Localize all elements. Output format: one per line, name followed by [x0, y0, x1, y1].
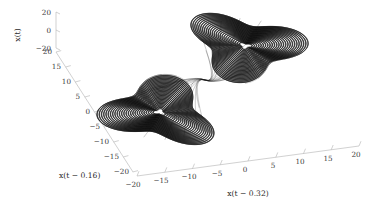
left-depth-axis-label: x(t − 0.16)	[59, 171, 100, 180]
bottom-ticklabel-neg15: −15	[153, 176, 169, 185]
left-tick-20	[56, 51, 61, 52]
attractor-trajectory	[97, 13, 309, 145]
vertical-tick-neg20	[56, 48, 60, 50]
bottom-ticklabel-neg5: −5	[212, 169, 223, 178]
bottom-ticklabel-20: 20	[351, 150, 361, 159]
left-ticklabel-neg10: −10	[94, 137, 110, 146]
axis-bottom-right: −20 −15 −10 −5 0 5 10 15 20 x(t − 0.32)	[125, 141, 361, 198]
vertical-tick-20	[56, 12, 60, 14]
bottom-ticklabel-neg20: −20	[125, 180, 141, 189]
orbit-connector	[173, 78, 205, 91]
left-ticklabel-15: 15	[52, 62, 62, 71]
left-ticklabel-20: 20	[43, 47, 53, 56]
axis-vertical-xt: 20 0 −20 x(t)	[13, 8, 60, 53]
left-tick-0	[94, 111, 99, 112]
bottom-tick-5	[276, 152, 278, 157]
bottom-tick-neg5	[220, 160, 222, 165]
bottom-tick-20	[359, 141, 361, 146]
bottom-ticklabel-0: 0	[243, 165, 248, 174]
bottom-tick-neg15	[165, 167, 167, 172]
vertical-ticklabel-0: 0	[46, 26, 51, 35]
figure-3d-attractor-plot: 20 0 −20 x(t) 20 15 10 5 0 −5 −10 −15 −2…	[0, 0, 374, 215]
bottom-ticklabel-15: 15	[323, 154, 333, 163]
left-tick-10	[75, 81, 80, 82]
bottom-ticklabel-neg10: −10	[181, 172, 197, 181]
orbit-connector	[205, 50, 212, 81]
left-ticklabel-neg5: −5	[89, 122, 100, 131]
left-tick-neg20	[133, 171, 138, 172]
bottom-tick-15	[331, 145, 333, 150]
left-tick-neg15	[123, 156, 128, 157]
left-tick-15	[66, 66, 71, 67]
bottom-tick-neg20	[137, 171, 139, 176]
left-ticklabel-0: 0	[85, 107, 90, 116]
vertical-ticklabel-20: 20	[42, 8, 52, 17]
bottom-ticklabel-5: 5	[271, 161, 276, 170]
bottom-ticklabel-10: 10	[295, 157, 305, 166]
left-tick-5	[85, 96, 90, 97]
orbit-connector	[197, 79, 205, 119]
vertical-tick-0	[56, 30, 60, 32]
bottom-tick-0	[248, 156, 250, 161]
bottom-tick-10	[304, 149, 306, 154]
plot-canvas: 20 0 −20 x(t) 20 15 10 5 0 −5 −10 −15 −2…	[0, 0, 374, 215]
left-ticklabel-neg15: −15	[104, 152, 120, 161]
left-ticklabel-5: 5	[75, 92, 80, 101]
vertical-axis-label: x(t)	[13, 28, 22, 41]
bottom-right-axis-label: x(t − 0.32)	[227, 189, 268, 198]
left-ticklabel-10: 10	[62, 77, 72, 86]
left-ticklabel-neg20: −20	[114, 167, 130, 176]
left-tick-neg10	[114, 141, 119, 142]
bottom-tick-neg10	[193, 164, 195, 169]
